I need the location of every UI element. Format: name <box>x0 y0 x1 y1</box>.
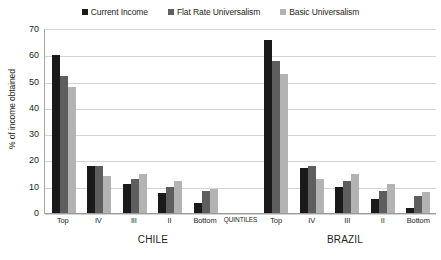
y-axis-tick-label: 20 <box>5 156 39 165</box>
bar-flat-rate-universalism <box>272 61 280 213</box>
y-axis-tick-label: 10 <box>5 182 39 191</box>
bar-basic-universalism <box>387 184 395 213</box>
bar-current-income <box>371 199 379 213</box>
bar-group <box>294 30 329 213</box>
bar-groups <box>46 30 436 213</box>
legend-label-current-income: Current Income <box>91 8 148 17</box>
bar-basic-universalism <box>422 192 430 213</box>
bar-group <box>401 30 436 213</box>
bar-flat-rate-universalism <box>414 196 422 213</box>
bar-flat-rate-universalism <box>131 179 139 213</box>
gridline <box>45 214 436 215</box>
legend-swatch-flat-rate-universalism <box>168 9 174 15</box>
bar-basic-universalism <box>103 176 111 213</box>
bar-flat-rate-universalism <box>166 187 174 213</box>
bar-current-income <box>87 166 95 213</box>
legend-label-basic-universalism: Basic Universalism <box>289 8 359 17</box>
x-axis-tick-label: IV <box>81 216 117 230</box>
bar-basic-universalism <box>351 174 359 213</box>
bar-current-income <box>52 55 60 213</box>
legend-swatch-current-income <box>82 9 88 15</box>
panel-label-chile: CHILE <box>138 234 168 245</box>
bar-group <box>46 30 81 213</box>
y-axis-tick-label: 0 <box>5 209 39 218</box>
legend-item-flat-rate-universalism: Flat Rate Universalism <box>168 8 260 17</box>
x-axis-tick-label: Bottom <box>187 216 223 230</box>
bar-chart: Current Income Flat Rate Universalism Ba… <box>0 0 441 260</box>
bar-current-income <box>300 168 308 213</box>
x-axis-tick-label: III <box>329 216 365 230</box>
x-axis-tick-label: II <box>365 216 401 230</box>
y-axis-tick-label: 60 <box>5 51 39 60</box>
plot-area-wrapper <box>44 29 436 214</box>
x-axis-tick-label: IV <box>294 216 330 230</box>
y-axis-tick-label: 50 <box>5 77 39 86</box>
panel-label-brazil: BRAZIL <box>327 234 363 245</box>
chart-legend: Current Income Flat Rate Universalism Ba… <box>0 4 441 20</box>
bar-basic-universalism <box>139 174 147 213</box>
x-axis-tick-label: Bottom <box>400 216 436 230</box>
bar-flat-rate-universalism <box>343 181 351 213</box>
bar-flat-rate-universalism <box>60 76 68 213</box>
legend-item-current-income: Current Income <box>82 8 148 17</box>
bar-current-income <box>123 184 131 213</box>
bar-current-income <box>158 193 166 213</box>
bar-flat-rate-universalism <box>308 166 316 213</box>
bar-basic-universalism <box>68 87 76 213</box>
bar-basic-universalism <box>316 179 324 213</box>
plot-area <box>44 29 436 214</box>
y-axis-tick-label: 30 <box>5 130 39 139</box>
bar-group <box>365 30 400 213</box>
bar-current-income <box>264 40 272 213</box>
bar-group <box>188 30 223 213</box>
x-axis-ticks: TopIVIIIIIBottomQUINTILESTopIVIIIIIBotto… <box>45 216 436 230</box>
legend-label-flat-rate-universalism: Flat Rate Universalism <box>177 8 260 17</box>
y-axis-tick-label: 70 <box>5 25 39 34</box>
x-axis-tick-label: QUINTILES <box>223 216 259 230</box>
bar-current-income <box>194 203 202 214</box>
bar-basic-universalism <box>174 181 182 213</box>
bar-group <box>152 30 187 213</box>
y-axis-ticks: 706050403020100 <box>0 29 44 214</box>
bar-flat-rate-universalism <box>95 166 103 213</box>
x-axis-tick-label: III <box>116 216 152 230</box>
bar-group <box>223 30 258 213</box>
legend-swatch-basic-universalism <box>280 9 286 15</box>
bar-flat-rate-universalism <box>379 191 387 213</box>
bar-current-income <box>335 187 343 213</box>
bar-group <box>259 30 294 213</box>
x-axis-line <box>45 213 436 214</box>
bar-basic-universalism <box>210 189 218 213</box>
x-axis-tick-label: Top <box>258 216 294 230</box>
bar-flat-rate-universalism <box>202 191 210 213</box>
y-axis-tick-label: 40 <box>5 103 39 112</box>
panel-labels: CHILE BRAZIL <box>45 234 436 250</box>
bar-group <box>81 30 116 213</box>
bar-group <box>330 30 365 213</box>
x-axis-tick-label: II <box>152 216 188 230</box>
bar-group <box>117 30 152 213</box>
legend-item-basic-universalism: Basic Universalism <box>280 8 359 17</box>
bar-basic-universalism <box>280 74 288 213</box>
x-axis-tick-label: Top <box>45 216 81 230</box>
